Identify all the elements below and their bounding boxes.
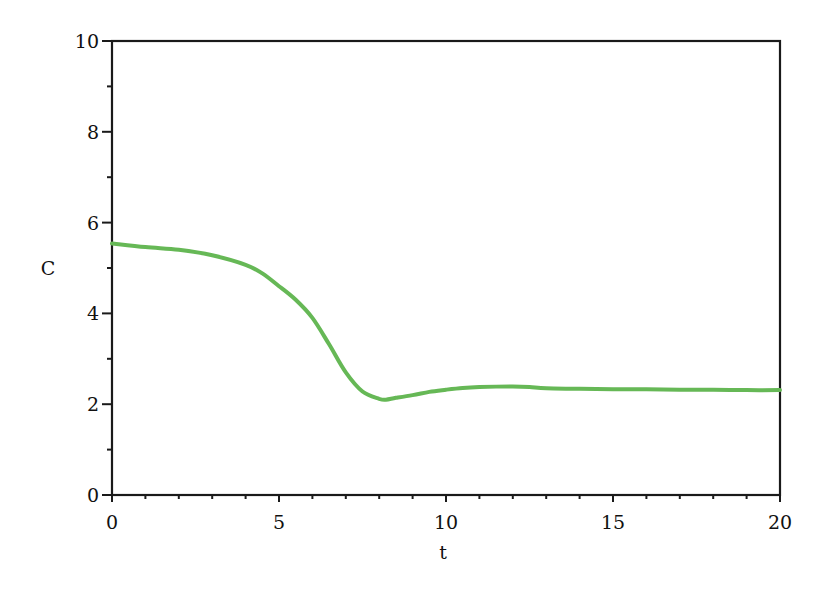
y-axis-label: C	[41, 257, 56, 279]
plot-border	[112, 41, 780, 495]
line-chart: 051015200246810 t C	[0, 0, 826, 590]
x-tick-label: 20	[768, 511, 792, 533]
y-tick-label: 8	[87, 121, 99, 143]
x-axis-label: t	[439, 541, 447, 563]
x-tick-label: 0	[106, 511, 118, 533]
x-tick-label: 5	[273, 511, 285, 533]
x-tick-label: 15	[601, 511, 625, 533]
y-tick-label: 6	[87, 212, 99, 234]
axis-ticks	[102, 41, 780, 502]
data-series-line	[112, 244, 780, 400]
y-tick-label: 0	[87, 484, 99, 506]
y-tick-label: 2	[87, 393, 99, 415]
y-tick-label: 10	[75, 30, 99, 52]
x-tick-label: 10	[434, 511, 458, 533]
y-tick-label: 4	[87, 302, 99, 324]
axis-tick-labels: 051015200246810	[75, 30, 792, 533]
plot-frame	[112, 41, 780, 495]
